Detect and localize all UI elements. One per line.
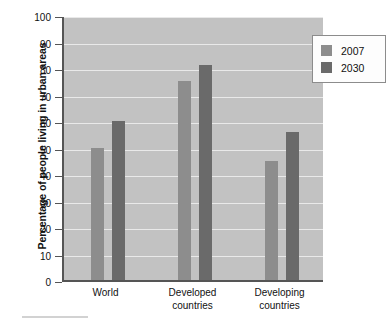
x-axis-category-label: Developingcountries [225,287,335,312]
legend-swatch-icon-2030 [321,62,332,73]
gridline [64,97,323,98]
scan-artifact [22,316,88,318]
y-axis-tick-label: 80 [11,70,51,71]
bar [178,81,191,280]
x-axis-category-label-line: Developing [225,287,335,300]
bar [91,148,104,281]
y-axis-tick-label: 100 [11,17,51,18]
bar [199,65,212,280]
gridline [64,123,323,124]
y-axis-tick [55,150,62,151]
bar [112,121,125,280]
y-axis-tick [55,229,62,230]
gridline [64,17,323,18]
y-axis-tick-label: 70 [11,97,51,98]
y-axis-tick [55,44,62,45]
legend-item-2030: 2030 [321,59,378,76]
y-axis-tick-label: 10 [11,256,51,257]
y-axis-tick [55,176,62,177]
y-axis-tick [55,256,62,257]
y-axis-tick [55,70,62,71]
y-axis-tick [55,17,62,18]
legend-item-2007: 2007 [321,42,378,59]
y-axis-tick-label: 60 [11,123,51,124]
y-axis-tick [55,97,62,98]
y-axis-tick [55,282,62,283]
legend-label-2007: 2007 [341,45,364,57]
y-axis-tick-label: 20 [11,229,51,230]
y-axis-tick-label: 30 [11,203,51,204]
y-axis-tick-label: 40 [11,176,51,177]
y-axis-tick [55,203,62,204]
legend-swatch-icon-2007 [321,45,332,56]
gridline [64,70,323,71]
y-axis-tick-label: 0 [11,282,51,283]
chart-legend: 2007 2030 [312,35,386,83]
y-axis-tick [55,123,62,124]
gridline [64,44,323,45]
y-axis-tick-label: 90 [11,44,51,45]
bar [286,132,299,280]
x-axis-category-label-line: countries [225,300,335,313]
y-axis-tick-label: 50 [11,150,51,151]
legend-label-2030: 2030 [341,62,364,74]
plot-area: 2007 2030 [62,17,323,282]
bar [265,161,278,280]
